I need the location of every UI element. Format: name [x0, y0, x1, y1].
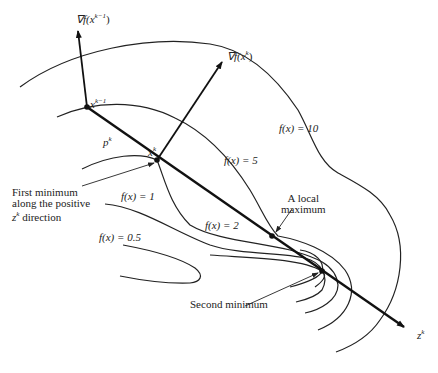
gradient-curr-arrow [157, 62, 222, 160]
point-x-curr [154, 157, 160, 163]
contour-05 [120, 245, 200, 283]
note-second-minimum: Second minimum [190, 299, 268, 310]
label-x-prev: xk−1 [90, 95, 106, 110]
first-minimum-direction: direction [22, 211, 61, 223]
grad-curr-text: ∇f(x [227, 50, 246, 62]
grad-curr-close: ) [249, 50, 253, 62]
note-first-minimum: First minimum along the positive zk dire… [12, 187, 90, 223]
point-local-max [269, 233, 275, 239]
x-prev-sup: k−1 [95, 97, 106, 105]
point-second-min [319, 268, 325, 274]
gradient-prev-arrow [78, 31, 87, 107]
label-grad-curr: ∇f(xk) [227, 47, 252, 62]
label-contour-2: f(x) = 2 [205, 219, 239, 231]
grad-prev-text: ∇f(x [76, 13, 95, 25]
grad-prev-close: ) [106, 13, 110, 25]
second-minimum-text: Second minimum [190, 299, 268, 310]
label-contour-10: f(x) = 10 [279, 122, 318, 134]
search-direction-line [87, 107, 404, 327]
label-contour-5: f(x) = 5 [224, 154, 258, 166]
point-x-prev [84, 104, 90, 110]
local-maximum-line-2: maximum [281, 204, 326, 215]
first-minimum-pointer [82, 163, 154, 186]
x-curr-sup: k [153, 145, 156, 153]
p-k-sup: k [109, 135, 112, 143]
label-contour-05: f(x) = 0.5 [99, 231, 141, 243]
note-local-maximum: A local maximum [281, 193, 326, 215]
contour-5 [57, 104, 351, 330]
first-minimum-z-sup: k [16, 210, 19, 218]
label-contour-1: f(x) = 1 [121, 190, 155, 202]
label-z-k: zk [417, 326, 424, 341]
grad-prev-sup: k−1 [95, 12, 106, 20]
first-minimum-line-3: zk direction [12, 209, 90, 223]
label-grad-prev: ∇f(xk−1) [76, 10, 110, 25]
label-x-curr: xk [148, 143, 156, 158]
label-p-k: pk [103, 133, 112, 148]
first-minimum-line-2: along the positive [12, 198, 90, 209]
z-k-sup: k [421, 328, 424, 336]
